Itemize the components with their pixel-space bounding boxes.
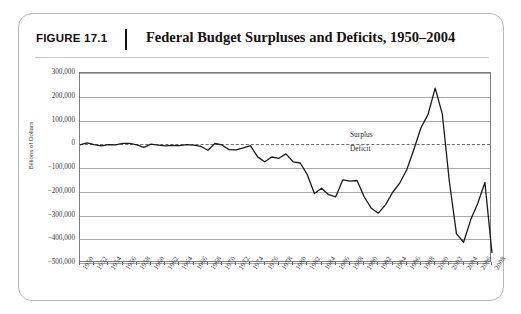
- data-series-line: [80, 88, 492, 253]
- y-axis-tick-label: −400,000: [48, 234, 75, 242]
- x-axis-tick-mark: [150, 262, 151, 265]
- x-axis-tick-mark: [193, 262, 194, 265]
- x-axis-tick-mark: [335, 262, 336, 265]
- x-axis-tick-mark: [306, 262, 307, 265]
- y-axis-tick-label: 200,000: [52, 92, 75, 100]
- x-axis-tick-mark: [278, 262, 279, 265]
- x-axis-tick-mark: [93, 262, 94, 265]
- x-axis-tick-mark: [235, 262, 236, 265]
- x-axis-tick-mark: [321, 262, 322, 265]
- x-axis-tick-mark: [448, 262, 449, 265]
- figure-card: FIGURE 17.1 Federal Budget Surpluses and…: [18, 13, 504, 301]
- x-axis-tick-mark: [178, 262, 179, 265]
- y-axis-tick-label: −100,000: [48, 163, 75, 171]
- plot-frame: SurplusDeficit: [79, 72, 491, 262]
- x-axis-tick-mark: [463, 262, 464, 265]
- figure-number-label: FIGURE 17.1: [36, 32, 107, 44]
- x-axis-tick-mark: [107, 262, 108, 265]
- x-axis-tick-mark: [406, 262, 407, 265]
- x-axis-tick-mark: [249, 262, 250, 265]
- x-axis-tick-label: 2008: [493, 255, 507, 271]
- figure-title: Federal Budget Surpluses and Deficits, 1…: [146, 29, 455, 46]
- x-axis-tick-mark: [221, 262, 222, 265]
- y-axis-tick-label: 300,000: [52, 68, 75, 76]
- x-axis-tick-mark: [363, 262, 364, 265]
- x-axis-tick-mark: [377, 262, 378, 265]
- chart-area: Billions of Dollars 300,000200,000100,00…: [19, 64, 505, 296]
- x-axis-tick-mark: [420, 262, 421, 265]
- figure-number-divider: [125, 29, 127, 50]
- x-axis-ticks: 1950195219541956195819601962196419661968…: [79, 262, 491, 296]
- y-axis-tick-labels: 300,000200,000100,0000−100,000−200,000−3…: [25, 72, 75, 262]
- x-axis-tick-mark: [136, 262, 137, 265]
- x-axis-tick-mark: [491, 262, 492, 265]
- x-axis-tick-mark: [122, 262, 123, 265]
- x-axis-tick-mark: [349, 262, 350, 265]
- y-axis-tick-label: −500,000: [48, 258, 75, 266]
- figure-header: FIGURE 17.1 Federal Budget Surpluses and…: [19, 26, 503, 60]
- x-axis-tick-mark: [164, 262, 165, 265]
- y-axis-tick-label: −200,000: [48, 187, 75, 195]
- x-axis-tick-mark: [392, 262, 393, 265]
- x-axis-tick-mark: [79, 262, 80, 265]
- header-divider: [35, 57, 489, 58]
- x-axis-tick-mark: [477, 262, 478, 265]
- x-axis-tick-mark: [292, 262, 293, 265]
- x-axis-tick-mark: [207, 262, 208, 265]
- x-axis-tick-mark: [264, 262, 265, 265]
- y-axis-tick-label: 0: [71, 139, 75, 147]
- data-series-layer: [80, 73, 492, 263]
- y-axis-tick-label: −300,000: [48, 211, 75, 219]
- x-axis-tick-mark: [434, 262, 435, 265]
- y-axis-tick-label: 100,000: [52, 116, 75, 124]
